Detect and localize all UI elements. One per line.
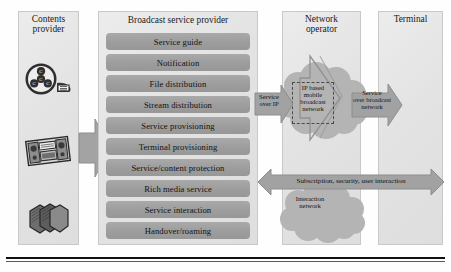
service-row-service-provisioning[interactable]: Service provisioning xyxy=(106,117,250,134)
panel-title-broadcast-service-provider: Broadcast service provider xyxy=(98,16,258,26)
service-row-service-guide[interactable]: Service guide xyxy=(106,33,250,50)
panel-title-line-1: Terminal xyxy=(378,15,443,25)
service-row-service-interaction[interactable]: Service interaction xyxy=(106,201,250,218)
film-reel-icon: CC CC xyxy=(24,63,74,97)
service-row-rich-media-service[interactable]: Rich media service xyxy=(106,180,250,197)
service-row-notification[interactable]: Notification xyxy=(106,54,250,71)
panel-title-terminal: Terminal xyxy=(378,15,443,25)
service-row-service-content-protection[interactable]: Service/content protection xyxy=(106,159,250,176)
panel-title-network-operator: Network operator xyxy=(282,15,361,35)
service-row-handover-roaming[interactable]: Handover/roaming xyxy=(106,222,250,239)
service-row-stream-distribution[interactable]: Stream distribution xyxy=(106,96,250,113)
bottom-rule-secondary xyxy=(6,261,445,262)
panel-title-contents-provider: Contents provider xyxy=(18,15,79,35)
dashed-box-ip-network xyxy=(292,82,334,124)
books-stack-icon xyxy=(26,201,70,237)
panel-title-line-2: provider xyxy=(18,25,79,35)
flow-arrow-service-over-ip xyxy=(255,85,293,123)
panel-title-line-2: operator xyxy=(282,25,361,35)
flow-arrow-subscription-security-user-interaction xyxy=(258,169,444,195)
panel-terminal xyxy=(378,11,443,245)
flow-arrow-service-over-broadcast-network xyxy=(352,84,402,126)
service-row-file-distribution[interactable]: File distribution xyxy=(106,75,250,92)
service-row-terminal-provisioning[interactable]: Terminal provisioning xyxy=(106,138,250,155)
bottom-rule xyxy=(6,257,445,259)
panel-title-line-1: Broadcast service provider xyxy=(98,16,258,26)
diagram-canvas: Contents provider CC CC xyxy=(0,0,451,272)
stereo-radio-icon xyxy=(24,134,72,168)
